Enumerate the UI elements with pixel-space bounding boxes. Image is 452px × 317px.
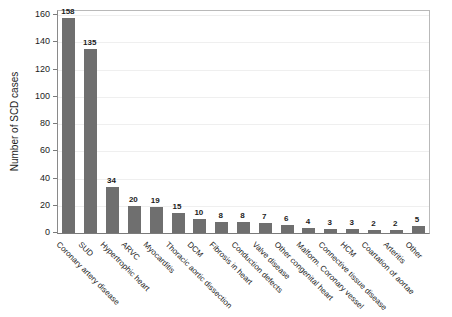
bar xyxy=(62,18,75,233)
bar-value-label: 158 xyxy=(51,7,85,16)
plot-area xyxy=(57,10,430,234)
y-tick-mark xyxy=(53,123,57,124)
y-tick-mark xyxy=(53,178,57,179)
y-tick-label: 160 xyxy=(26,9,50,19)
bar xyxy=(302,228,315,233)
bar-value-label: 34 xyxy=(95,176,129,185)
y-axis-label: Number of SCD cases xyxy=(9,42,20,202)
bar xyxy=(215,222,228,233)
x-tick-label: HCM xyxy=(338,240,357,259)
bar xyxy=(281,225,294,233)
y-tick-label: 80 xyxy=(26,118,50,128)
y-tick-mark xyxy=(53,69,57,70)
bar xyxy=(390,230,403,233)
bar xyxy=(237,222,250,233)
bar xyxy=(193,219,206,233)
gridline xyxy=(58,15,429,16)
bar-value-label: 5 xyxy=(400,215,434,224)
y-tick-label: 0 xyxy=(26,227,50,237)
y-tick-label: 120 xyxy=(26,64,50,74)
y-tick-mark xyxy=(53,41,57,42)
bar xyxy=(84,49,97,233)
y-tick-label: 140 xyxy=(26,36,50,46)
y-tick-label: 60 xyxy=(26,145,50,155)
y-tick-mark xyxy=(53,232,57,233)
bar-chart: Number of SCD cases 02040608010012014016… xyxy=(0,0,452,317)
bar xyxy=(128,206,141,233)
bar xyxy=(106,187,119,233)
bar xyxy=(324,229,337,233)
gridline xyxy=(58,97,429,98)
bar xyxy=(259,223,272,233)
x-tick-label: SUD xyxy=(76,240,94,258)
bar-value-label: 135 xyxy=(73,38,107,47)
bar xyxy=(412,226,425,233)
bar xyxy=(150,207,163,233)
y-tick-mark xyxy=(53,205,57,206)
gridline xyxy=(58,70,429,71)
bar xyxy=(368,230,381,233)
gridline xyxy=(58,42,429,43)
x-tick-label: DCM xyxy=(185,240,204,259)
bar xyxy=(346,229,359,233)
y-tick-label: 100 xyxy=(26,91,50,101)
y-tick-mark xyxy=(53,150,57,151)
y-tick-label: 40 xyxy=(26,173,50,183)
y-tick-label: 20 xyxy=(26,200,50,210)
x-tick-label: Other xyxy=(404,240,425,261)
gridline xyxy=(58,124,429,125)
y-tick-mark xyxy=(53,96,57,97)
gridline xyxy=(58,151,429,152)
